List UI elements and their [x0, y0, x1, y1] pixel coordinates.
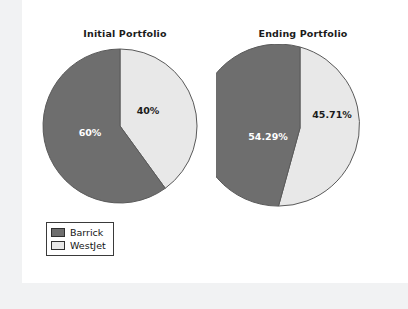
- legend-item-barrick[interactable]: Barrick: [51, 226, 106, 239]
- pie-ending-portfolio: 45.71% 54.29%: [216, 44, 384, 212]
- legend-label-westjet: WestJet: [70, 239, 106, 252]
- pie-label-westjet-initial: 40%: [137, 105, 160, 116]
- pie-svg-ending: 45.71% 54.29%: [216, 44, 384, 212]
- pie-initial-portfolio: 40% 60%: [40, 46, 200, 206]
- pie-label-westjet-ending: 45.71%: [312, 109, 352, 120]
- plot-panel: Initial Portfolio 40% 60% Ending Portfol…: [22, 0, 408, 283]
- pie-svg-initial: 40% 60%: [40, 46, 200, 206]
- legend-item-westjet[interactable]: WestJet: [51, 239, 106, 252]
- chart-title-ending: Ending Portfolio: [210, 28, 396, 39]
- pie-label-barrick-ending: 54.29%: [248, 131, 288, 142]
- legend: Barrick WestJet: [46, 222, 114, 256]
- legend-label-barrick: Barrick: [70, 226, 103, 239]
- legend-swatch-barrick: [51, 228, 65, 237]
- pie-label-barrick-initial: 60%: [79, 127, 102, 138]
- pie-chart-figure: Initial Portfolio 40% 60% Ending Portfol…: [0, 0, 408, 309]
- legend-swatch-westjet: [51, 241, 65, 250]
- chart-title-initial: Initial Portfolio: [40, 28, 210, 39]
